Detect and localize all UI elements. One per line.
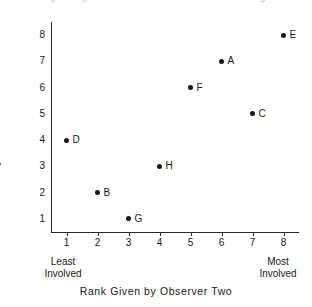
x-tick-mark bbox=[191, 232, 192, 236]
x-tick-mark bbox=[253, 232, 254, 236]
data-point-b bbox=[95, 190, 100, 195]
x-high-line-1: Most bbox=[246, 256, 310, 268]
x-tick-label: 7 bbox=[250, 238, 256, 248]
data-point-c bbox=[250, 111, 255, 116]
x-tick-mark bbox=[129, 232, 130, 236]
data-point-label-b: B bbox=[104, 188, 111, 198]
x-tick-mark bbox=[160, 232, 161, 236]
y-tick-label: 5 bbox=[39, 109, 45, 119]
data-point-label-d: D bbox=[73, 135, 80, 145]
y-axis-title: Rank Given by Observer One bbox=[0, 32, 1, 232]
y-tick-label: 3 bbox=[39, 161, 45, 171]
data-point-d bbox=[64, 138, 69, 143]
figure-title-text: Figure: Agreement between two observers'… bbox=[0, 0, 312, 2]
data-point-label-c: C bbox=[259, 109, 266, 119]
data-point-label-e: E bbox=[290, 30, 297, 40]
data-point-f bbox=[188, 85, 193, 90]
y-tick-label: 8 bbox=[39, 30, 45, 40]
x-tick-label: 6 bbox=[219, 238, 225, 248]
data-point-a bbox=[219, 59, 224, 64]
x-low-line-1: Least bbox=[31, 256, 95, 268]
x-axis-line bbox=[51, 232, 299, 233]
y-axis-line bbox=[51, 22, 52, 233]
x-tick-mark bbox=[98, 232, 99, 236]
data-point-label-f: F bbox=[197, 83, 203, 93]
x-axis-low-annotation: Least Involved bbox=[31, 256, 95, 280]
x-tick-label: 5 bbox=[188, 238, 194, 248]
clipped-figure-title: Figure: Agreement between two observers'… bbox=[0, 0, 312, 3]
x-tick-label: 1 bbox=[64, 238, 70, 248]
data-point-e bbox=[281, 33, 286, 38]
scatter-plot-figure: Figure: Agreement between two observers'… bbox=[0, 0, 312, 307]
x-tick-label: 2 bbox=[95, 238, 101, 248]
y-tick-label: 2 bbox=[39, 188, 45, 198]
x-tick-label: 3 bbox=[126, 238, 132, 248]
data-point-h bbox=[157, 164, 162, 169]
y-tick-label: 6 bbox=[39, 83, 45, 93]
x-tick-label: 8 bbox=[281, 238, 287, 248]
y-tick-label: 1 bbox=[39, 214, 45, 224]
x-axis-high-annotation: Most Involved bbox=[246, 256, 310, 280]
y-tick-label: 4 bbox=[39, 135, 45, 145]
plot-area: 12345678 12345678 ABCDEFGH bbox=[51, 22, 299, 232]
x-axis-title: Rank Given by Observer Two bbox=[0, 285, 312, 297]
data-point-label-g: G bbox=[135, 214, 143, 224]
data-point-label-h: H bbox=[166, 161, 173, 171]
data-point-g bbox=[126, 216, 131, 221]
x-high-line-2: Involved bbox=[246, 268, 310, 280]
x-tick-mark bbox=[222, 232, 223, 236]
x-low-line-2: Involved bbox=[31, 268, 95, 280]
y-tick-label: 7 bbox=[39, 56, 45, 66]
data-point-label-a: A bbox=[228, 56, 235, 66]
x-tick-mark bbox=[284, 232, 285, 236]
x-tick-label: 4 bbox=[157, 238, 163, 248]
x-tick-mark bbox=[67, 232, 68, 236]
